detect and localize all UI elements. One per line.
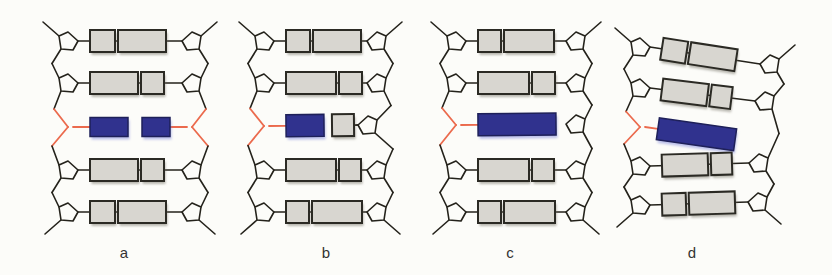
- base-rect: [286, 30, 310, 52]
- base-pairs: [461, 30, 566, 226]
- base-rect: [504, 201, 555, 223]
- base-rect: [504, 30, 554, 52]
- sugar-pentagon-icon: [749, 154, 768, 172]
- base-rect: [90, 159, 138, 181]
- base-pairs: [73, 30, 187, 226]
- base-rect: [141, 159, 164, 181]
- sugar-pentagon-icon: [566, 74, 585, 92]
- base-rect: [141, 72, 164, 94]
- damaged-base-rect: [656, 118, 736, 151]
- sugar-pentagon-icon: [755, 92, 774, 110]
- sugar-pentagon-icon: [631, 157, 650, 175]
- panel-b: [239, 22, 402, 234]
- sugar-pentagon-icon: [367, 32, 386, 50]
- base-rect: [478, 72, 529, 94]
- sugar-pentagon-icon: [447, 203, 466, 221]
- panel-a: [43, 22, 217, 234]
- sugar-pentagon-icon: [59, 74, 78, 92]
- base-rect: [532, 72, 555, 94]
- sugar-pentagon-icon: [447, 74, 466, 92]
- base-rect: [90, 30, 115, 52]
- sugar-pentagon-icon: [182, 203, 201, 221]
- base-rect: [711, 153, 733, 176]
- base-rect: [332, 114, 354, 136]
- base-rect: [118, 201, 166, 223]
- sugar-pentagon-icon: [631, 196, 650, 214]
- sugar-pentagon-icon: [367, 74, 386, 92]
- base-rect: [661, 79, 709, 106]
- base-rect: [286, 72, 336, 94]
- base-rect: [90, 201, 115, 223]
- base-rect: [532, 159, 554, 181]
- base-rect: [312, 201, 362, 223]
- sugar-pentagon-icon: [367, 203, 386, 221]
- sugar-pentagon-icon: [566, 115, 585, 133]
- base-rect: [286, 159, 336, 181]
- sugar-pentagon-icon: [566, 32, 585, 50]
- base-rect: [286, 201, 309, 223]
- sugar-pentagon-icon: [255, 161, 274, 179]
- base-rect: [339, 159, 361, 181]
- sugar-pentagon-icon: [182, 74, 201, 92]
- base-pairs: [645, 38, 760, 219]
- sugar-pentagon-icon: [59, 32, 78, 50]
- base-rect: [90, 72, 138, 94]
- sugar-pentagon-icon: [358, 116, 377, 134]
- sugar-pentagon-icon: [255, 32, 274, 50]
- sugar-pentagon-icon: [367, 161, 386, 179]
- base-pairs: [269, 30, 367, 226]
- base-rect: [478, 159, 529, 181]
- sugar-pentagon-icon: [447, 161, 466, 179]
- damaged-base-rect: [286, 114, 324, 136]
- base-rect: [709, 85, 733, 109]
- sugar-pentagon-icon: [566, 161, 585, 179]
- sugar-pentagon-icon: [59, 203, 78, 221]
- sugar-pentagon-icon: [59, 161, 78, 179]
- dna-damage-figure: a b c d: [0, 0, 832, 275]
- base-rect: [689, 191, 736, 214]
- sugar-pentagon-icon: [566, 203, 585, 221]
- panel-label-c: c: [501, 244, 519, 262]
- panel-d: [615, 28, 795, 227]
- base-rect: [313, 30, 361, 52]
- sugar-pentagon-icon: [631, 38, 650, 56]
- damaged-base-rect: [478, 113, 556, 136]
- sugar-pentagon-icon: [182, 161, 201, 179]
- panel-label-b: b: [317, 244, 335, 262]
- base-rect: [660, 38, 688, 64]
- sugar-pentagon-icon: [255, 203, 274, 221]
- panel-c: [431, 22, 601, 234]
- sugar-pentagon-icon: [255, 74, 274, 92]
- sugar-pentagon-icon: [447, 32, 466, 50]
- base-rect: [662, 193, 687, 216]
- panel-label-d: d: [683, 244, 701, 262]
- damaged-base-rect: [142, 118, 170, 137]
- base-rect: [339, 72, 362, 94]
- panel-label-a: a: [115, 244, 133, 262]
- sugar-pentagon-icon: [631, 79, 650, 97]
- dna-damage-diagram: [0, 0, 832, 275]
- base-rect: [478, 201, 501, 223]
- sugar-pentagon-icon: [182, 32, 201, 50]
- base-rect: [118, 30, 166, 52]
- base-rect: [662, 153, 709, 176]
- sugar-pentagon-icon: [748, 193, 767, 211]
- sugar-pentagon-icon: [760, 55, 779, 73]
- base-rect: [478, 30, 501, 52]
- damaged-base-rect: [90, 118, 128, 137]
